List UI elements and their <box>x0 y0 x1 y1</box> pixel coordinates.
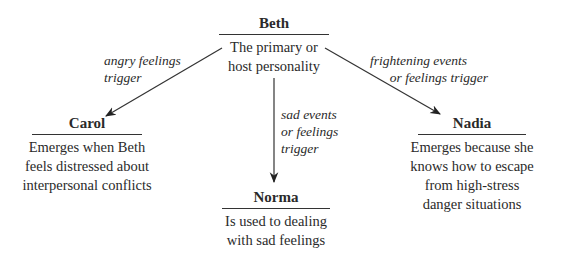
edge-label-frightening: frightening events or feelings trigger <box>370 52 488 86</box>
node-norma-name: Norma <box>214 188 338 206</box>
node-carol: Carol Emerges when Beth feels distressed… <box>14 114 160 195</box>
node-carol-description: Emerges when Beth feels distressed about… <box>14 138 160 195</box>
node-norma-description: Is used to dealing with sad feelings <box>214 212 338 250</box>
edge-label-angry: angry feelings trigger <box>104 52 181 86</box>
node-beth: Beth The primary or host personality <box>218 14 330 76</box>
node-norma: Norma Is used to dealing with sad feelin… <box>214 188 338 250</box>
node-nadia-description: Emerges because she knows how to escape … <box>402 138 542 214</box>
node-carol-divider <box>32 134 142 135</box>
node-beth-divider <box>219 34 329 35</box>
node-nadia: Nadia Emerges because she knows how to e… <box>402 114 542 214</box>
node-beth-description: The primary or host personality <box>218 38 330 76</box>
node-nadia-divider <box>418 134 526 135</box>
node-beth-name: Beth <box>218 14 330 32</box>
node-nadia-name: Nadia <box>402 114 542 132</box>
node-norma-divider <box>222 208 330 209</box>
edge-label-sad: sad events or feelings trigger <box>281 106 338 157</box>
node-carol-name: Carol <box>14 114 160 132</box>
